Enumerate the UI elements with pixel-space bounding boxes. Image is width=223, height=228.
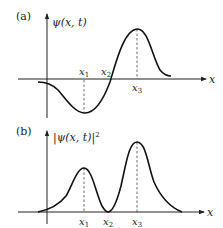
panel-b-y-label: |ψ(x, t)|2 xyxy=(53,131,100,145)
panel-a-y-label: ψ(x, t) xyxy=(52,16,87,29)
panel-a-mark-x2: x2 xyxy=(101,66,111,79)
panel-b-mark-x1: x1 xyxy=(79,216,89,228)
panel-a-tag: (a) xyxy=(16,10,31,23)
panel-a-mark-x3: x3 xyxy=(132,82,142,95)
panel-a: (a) ψ(x, t) x x1 x2 x3 xyxy=(16,10,216,118)
panel-b: (b) |ψ(x, t)|2 x x1 x2 x3 xyxy=(16,125,214,228)
panel-a-x-label: x xyxy=(209,73,216,86)
panel-b-curve xyxy=(38,142,182,212)
panel-a-mark-x1: x1 xyxy=(79,66,89,79)
panel-b-tag: (b) xyxy=(16,125,32,138)
panel-b-x-label: x xyxy=(207,206,214,219)
panel-b-mark-x2: x2 xyxy=(103,216,113,228)
panel-b-mark-x3: x3 xyxy=(132,216,142,228)
wavefunction-figure: (a) ψ(x, t) x x1 x2 x3 (b) |ψ(x, t)|2 x … xyxy=(0,0,223,228)
